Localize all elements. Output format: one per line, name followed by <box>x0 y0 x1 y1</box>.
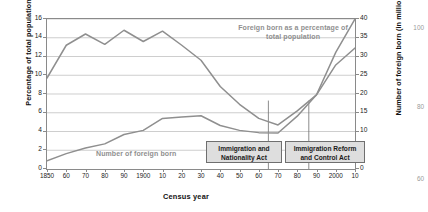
y-tick-mark-right <box>356 112 359 113</box>
edge-number-middle: 80 <box>417 103 424 110</box>
y-tick-left: 0 <box>20 165 42 172</box>
y-tick-left: 4 <box>20 127 42 134</box>
edge-number-bottom: 60 <box>417 175 424 182</box>
y-tick-right: 20 <box>360 90 382 97</box>
y-tick-mark-right <box>356 93 359 94</box>
y-tick-mark-right <box>356 37 359 38</box>
y-axis-right-title: Number of foreign born (in millions) <box>394 0 403 128</box>
edge-number-top: 100 <box>413 24 424 31</box>
y-tick-mark-right <box>356 56 359 57</box>
y-tick-left: 8 <box>20 90 42 97</box>
y-tick-mark-right <box>356 18 359 19</box>
y-tick-right: 40 <box>360 15 382 22</box>
x-tick: 10 <box>342 173 368 179</box>
x-axis-title: Census year <box>0 192 372 201</box>
y-tick-right: 25 <box>360 71 382 78</box>
y-tick-left: 2 <box>20 146 42 153</box>
y-tick-right: 30 <box>360 52 382 59</box>
y-tick-left: 10 <box>20 71 42 78</box>
y-tick-mark-right <box>356 131 359 132</box>
y-tick-right: 10 <box>360 127 382 134</box>
y-tick-mark-right <box>356 74 359 75</box>
y-tick-right: 0 <box>360 165 382 172</box>
y-tick-right: 35 <box>360 33 382 40</box>
series-label-number: Number of foreign born <box>96 150 212 159</box>
y-tick-mark-right <box>356 168 359 169</box>
annotation-immigration-reform-control-act: Immigration Reform and Control Act <box>285 141 365 163</box>
y-tick-right: 15 <box>360 108 382 115</box>
y-tick-left: 12 <box>20 52 42 59</box>
y-tick-left: 14 <box>20 33 42 40</box>
series-label-percentage: Foreign born as a percentage of total po… <box>232 24 354 42</box>
chart-figure: Percentage of total population Number of… <box>0 0 428 212</box>
annotation-immigration-nationality-act: Immigration and Nationality Act <box>206 141 282 163</box>
y-tick-left: 16 <box>20 15 42 22</box>
y-tick-left: 6 <box>20 108 42 115</box>
